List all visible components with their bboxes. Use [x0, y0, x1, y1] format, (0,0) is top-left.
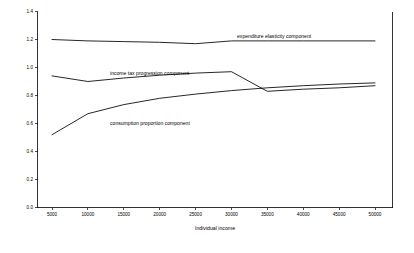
y-tick-label: 0.2	[27, 177, 34, 182]
chart-container: 0.00.20.40.60.81.01.21.45000100001500020…	[0, 0, 414, 253]
series-annotation-0: expenditure elasticity component	[237, 33, 312, 39]
y-tick-label: 0.0	[27, 205, 34, 210]
y-tick-label: 0.4	[27, 149, 34, 154]
x-tick-label: 45000	[333, 212, 346, 217]
x-tick-label: 50000	[369, 212, 382, 217]
y-tick-label: 0.8	[27, 93, 34, 98]
x-tick-label: 10000	[81, 212, 94, 217]
x-tick-label: 40000	[297, 212, 310, 217]
y-tick-label: 1.2	[27, 37, 34, 42]
line-chart: 0.00.20.40.60.81.01.21.45000100001500020…	[0, 0, 414, 253]
series-annotation-2: consumption proportion component	[110, 120, 190, 126]
series-line-0	[52, 40, 375, 44]
x-tick-label: 15000	[117, 212, 130, 217]
series-annotation-1: income tax progression component	[110, 70, 190, 76]
x-tick-label: 25000	[189, 212, 202, 217]
series-line-1	[52, 72, 375, 92]
series-line-2	[52, 83, 375, 135]
y-tick-label: 1.0	[27, 65, 34, 70]
x-axis-title: Individual income	[195, 225, 235, 231]
y-tick-label: 0.6	[27, 121, 34, 126]
x-tick-label: 5000	[47, 212, 58, 217]
x-tick-label: 35000	[261, 212, 274, 217]
y-tick-label: 1.4	[27, 9, 34, 14]
x-tick-label: 30000	[225, 212, 238, 217]
x-tick-label: 20000	[153, 212, 166, 217]
